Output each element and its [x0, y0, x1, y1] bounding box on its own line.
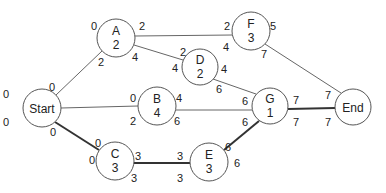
edge-start-c: [55, 122, 99, 150]
node-f: F 3: [232, 12, 270, 50]
node-f-name: F: [247, 17, 254, 31]
g-ef: 7: [293, 94, 299, 106]
end-es: 7: [325, 89, 331, 101]
g-es: 6: [242, 95, 248, 107]
node-d: D 2: [182, 49, 218, 85]
node-e-duration: 3: [206, 162, 213, 176]
edge-a-d: [134, 45, 183, 60]
edge-start-a: [56, 51, 102, 95]
start-a-out: 0: [49, 81, 55, 93]
node-g-name: G: [265, 92, 274, 106]
edge-g-end: [288, 108, 335, 109]
node-a: A 2: [97, 19, 135, 57]
e-ef: 6: [225, 141, 231, 153]
node-a-duration: 2: [113, 38, 120, 52]
d-ef: 4: [221, 63, 227, 75]
node-b-duration: 4: [154, 106, 161, 120]
d-es: 2: [180, 46, 186, 58]
f-es: 2: [224, 20, 230, 32]
b-ls: 2: [130, 115, 136, 127]
end-ls: 7: [325, 116, 331, 128]
c-ef: 3: [135, 150, 141, 162]
node-g: G 1: [252, 88, 288, 124]
e-es: 3: [177, 150, 183, 162]
a-ef: 2: [139, 20, 145, 32]
f-ls: 4: [223, 41, 229, 53]
c-es-top: 0: [95, 137, 101, 149]
node-c-name: C: [111, 147, 120, 161]
node-b: B 4: [138, 87, 176, 125]
b-lf: 6: [174, 115, 180, 127]
a-ls: 2: [98, 56, 104, 68]
node-d-name: D: [196, 53, 205, 67]
f-lf: 7: [261, 48, 267, 60]
d-ls: 4: [172, 62, 178, 74]
d-lf: 6: [216, 83, 222, 95]
node-start-label: Start: [29, 102, 55, 116]
e-lf: 6: [234, 157, 240, 169]
node-g-duration: 1: [267, 106, 274, 120]
c-ls: 0: [89, 154, 95, 166]
b-ef: 4: [176, 92, 182, 104]
edge-f-end: [265, 44, 341, 93]
node-e-name: E: [205, 148, 213, 162]
start-ls: 0: [3, 116, 9, 128]
c-lf: 3: [131, 172, 137, 184]
node-end: End: [335, 89, 371, 125]
node-c-duration: 3: [112, 161, 119, 175]
node-f-duration: 3: [248, 31, 255, 45]
node-a-name: A: [112, 24, 120, 38]
edge-a-f: [135, 35, 232, 36]
e-ls: 3: [177, 172, 183, 184]
start-c-out: 0: [50, 126, 56, 138]
a-es: 0: [91, 20, 97, 32]
start-es: 0: [3, 88, 9, 100]
g-ls: 6: [242, 116, 248, 128]
node-c: C 3: [96, 142, 134, 180]
f-ef: 5: [270, 20, 276, 32]
node-b-name: B: [153, 92, 161, 106]
b-es: 0: [130, 92, 136, 104]
node-end-label: End: [342, 101, 363, 115]
node-d-duration: 2: [197, 67, 204, 81]
a-lf: 4: [132, 51, 138, 63]
node-e: E 3: [190, 143, 228, 181]
edge-start-b: [61, 106, 138, 108]
node-start: Start: [23, 89, 61, 127]
network-diagram: Start A 2 F 3 D 2 B 4 G 1 C 3 E 3 End: [0, 0, 386, 193]
g-lf: 7: [293, 116, 299, 128]
